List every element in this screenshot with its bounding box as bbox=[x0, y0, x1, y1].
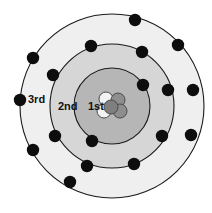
electron-dot bbox=[185, 129, 197, 141]
electron-dot bbox=[14, 94, 26, 106]
electron-dot bbox=[49, 130, 61, 142]
electron-dot bbox=[172, 39, 184, 51]
electron-dot bbox=[47, 69, 59, 81]
shell-label-3rd: 3rd bbox=[28, 93, 45, 105]
electron-dot bbox=[128, 158, 140, 170]
atom-diagram-svg: 1st 2nd 3rd bbox=[0, 0, 212, 213]
nucleon-dark bbox=[104, 100, 118, 114]
electron-dot bbox=[156, 130, 168, 142]
electron-dot bbox=[129, 14, 141, 26]
electron-dot bbox=[86, 135, 98, 147]
electron-dot bbox=[136, 46, 148, 58]
electron-dot bbox=[64, 176, 76, 188]
shell-label-1st: 1st bbox=[88, 100, 104, 112]
electron-dot bbox=[27, 144, 39, 156]
electron-dot bbox=[85, 40, 97, 52]
electron-dot bbox=[137, 79, 149, 91]
atom-diagram: 1st 2nd 3rd bbox=[0, 0, 212, 213]
electron-dot bbox=[187, 84, 199, 96]
electron-dot bbox=[27, 52, 39, 64]
electron-dot bbox=[162, 84, 174, 96]
shell-label-2nd: 2nd bbox=[58, 100, 78, 112]
electron-dot bbox=[81, 160, 93, 172]
